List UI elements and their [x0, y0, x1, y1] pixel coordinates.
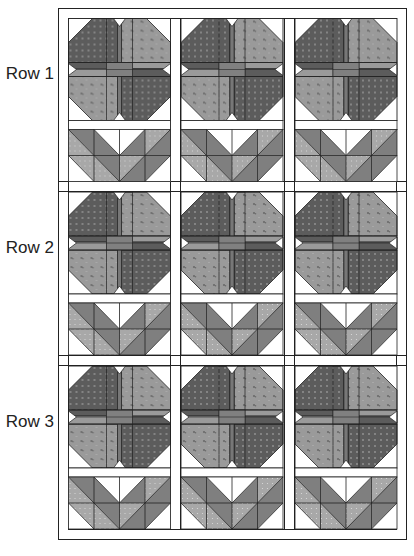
row-1-blocks: [69, 19, 398, 182]
quilt-diagram: [0, 0, 414, 556]
row-3-blocks: [69, 366, 398, 529]
row-2-blocks: [69, 192, 398, 355]
